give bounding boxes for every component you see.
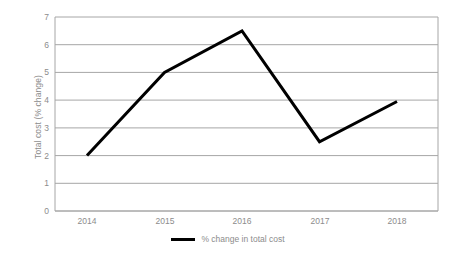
line-chart: Total cost (% change) 7 6 5 4 3 2 1 0 20… [0,0,456,255]
y-tick-label-7: 7 [33,12,49,22]
y-tick-label-3: 3 [33,123,49,133]
y-tick-label-5: 5 [33,67,49,77]
series-line-percent-change-in-total-cost [87,31,397,156]
chart-legend: % change in total cost [0,234,456,244]
legend-label: % change in total cost [201,234,284,244]
x-tick-label-2016: 2016 [222,216,262,226]
x-tick-label-2014: 2014 [67,216,107,226]
x-tick-label-2015: 2015 [145,216,185,226]
x-tick-label-2017: 2017 [300,216,340,226]
legend-swatch-icon [171,238,195,241]
y-tick-label-0: 0 [33,206,49,216]
y-tick-label-2: 2 [33,151,49,161]
y-tick-label-4: 4 [33,95,49,105]
x-tick-label-2018: 2018 [377,216,417,226]
y-tick-label-6: 6 [33,40,49,50]
gridlines [55,17,438,211]
y-tick-label-1: 1 [33,178,49,188]
y-axis-title: Total cost (% change) [33,42,43,192]
